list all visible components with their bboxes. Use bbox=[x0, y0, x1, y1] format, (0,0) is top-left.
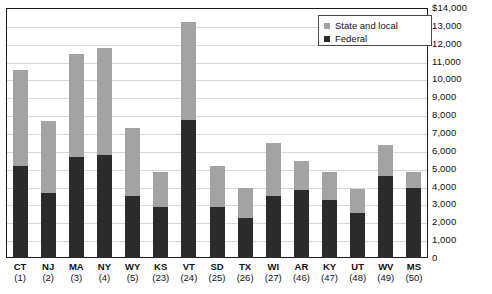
x-axis-state-abbr: WV bbox=[371, 261, 401, 272]
bar-segment-state-and-local bbox=[350, 189, 365, 213]
x-axis-state-rank: (27) bbox=[258, 272, 288, 283]
bar-column bbox=[378, 145, 393, 258]
bar-segment-state-and-local bbox=[322, 172, 337, 200]
bar-segment-state-and-local bbox=[125, 128, 140, 196]
x-axis-state-rank: (2) bbox=[33, 272, 63, 283]
chart-legend: State and local Federal bbox=[318, 15, 432, 46]
bar-column bbox=[294, 161, 309, 258]
y-axis-tick-label: 5,000 bbox=[432, 164, 456, 174]
bar-segment-federal bbox=[322, 200, 337, 258]
x-axis-tick-label: AR(46) bbox=[286, 261, 316, 283]
legend-label-state-and-local: State and local bbox=[335, 21, 398, 31]
x-axis-state-abbr: WY bbox=[118, 261, 148, 272]
y-axis-tick-label: 0 bbox=[432, 253, 437, 263]
x-axis-state-rank: (23) bbox=[146, 272, 176, 283]
y-axis-tick-label: 7,000 bbox=[432, 128, 456, 138]
bar-column bbox=[322, 172, 337, 258]
bar-segment-state-and-local bbox=[69, 54, 84, 157]
x-axis-state-rank: (26) bbox=[230, 272, 260, 283]
bar-column bbox=[181, 22, 196, 258]
cropped-title-text bbox=[70, 0, 370, 2]
x-axis-state-rank: (1) bbox=[5, 272, 35, 283]
y-axis-tick-label: 12,000 bbox=[432, 39, 462, 49]
bar-column bbox=[69, 54, 84, 258]
y-axis-tick-label: 9,000 bbox=[432, 92, 456, 102]
x-axis-state-rank: (46) bbox=[286, 272, 316, 283]
x-axis-state-abbr: MS bbox=[399, 261, 429, 272]
x-axis-state-rank: (24) bbox=[174, 272, 204, 283]
bar-segment-federal bbox=[238, 218, 253, 258]
y-axis-labels: $14,00013,00012,00011,00010,0009,0008,00… bbox=[432, 0, 492, 270]
x-axis-tick-label: SD(25) bbox=[202, 261, 232, 283]
x-axis-state-abbr: NY bbox=[89, 261, 119, 272]
x-axis-tick-label: NJ(2) bbox=[33, 261, 63, 283]
x-axis-state-rank: (25) bbox=[202, 272, 232, 283]
x-axis-state-abbr: KY bbox=[315, 261, 345, 272]
x-axis-state-abbr: NJ bbox=[33, 261, 63, 272]
x-axis-state-rank: (50) bbox=[399, 272, 429, 283]
bar-segment-state-and-local bbox=[378, 145, 393, 176]
x-axis-state-rank: (4) bbox=[89, 272, 119, 283]
bar-segment-federal bbox=[378, 176, 393, 258]
x-axis-tick-label: VT(24) bbox=[174, 261, 204, 283]
bar-column bbox=[153, 172, 168, 258]
legend-swatch-icon-state-and-local bbox=[324, 23, 330, 29]
bar-segment-federal bbox=[406, 188, 421, 258]
x-axis-state-rank: (47) bbox=[315, 272, 345, 283]
y-axis-tick-label: 11,000 bbox=[432, 57, 461, 67]
bar-segment-state-and-local bbox=[13, 70, 28, 166]
x-axis-state-abbr: KS bbox=[146, 261, 176, 272]
bar-segment-state-and-local bbox=[153, 172, 168, 207]
x-axis-state-rank: (48) bbox=[343, 272, 373, 283]
x-axis-tick-label: CT(1) bbox=[5, 261, 35, 283]
x-axis-state-rank: (5) bbox=[118, 272, 148, 283]
bar-column bbox=[210, 166, 225, 258]
bar-segment-federal bbox=[350, 213, 365, 258]
legend-item-federal: Federal bbox=[324, 32, 431, 45]
bar-column bbox=[125, 128, 140, 258]
x-axis-tick-label: MA(3) bbox=[61, 261, 91, 283]
bar-segment-state-and-local bbox=[266, 143, 281, 196]
bar-segment-federal bbox=[210, 207, 225, 258]
bar-segment-federal bbox=[125, 196, 140, 258]
bar-segment-state-and-local bbox=[97, 48, 112, 155]
x-axis-state-abbr: WI bbox=[258, 261, 288, 272]
bar-segment-state-and-local bbox=[406, 172, 421, 188]
legend-item-state-and-local: State and local bbox=[324, 19, 431, 32]
x-axis-labels: CT(1)NJ(2)MA(3)NY(4)WY(5)KS(23)VT(24)SD(… bbox=[6, 261, 428, 294]
x-axis-tick-label: UT(48) bbox=[343, 261, 373, 283]
bar-segment-federal bbox=[69, 157, 84, 258]
bar-column bbox=[406, 172, 421, 258]
bar-segment-federal bbox=[181, 120, 196, 258]
bar-segment-federal bbox=[97, 155, 112, 258]
y-axis-tick-label: 8,000 bbox=[432, 110, 456, 120]
y-axis-tick-label: 6,000 bbox=[432, 146, 456, 156]
y-axis-tick-label: 3,000 bbox=[432, 199, 456, 209]
x-axis-state-abbr: AR bbox=[286, 261, 316, 272]
bar-segment-state-and-local bbox=[294, 161, 309, 190]
x-axis-tick-label: NY(4) bbox=[89, 261, 119, 283]
x-axis-tick-label: MS(50) bbox=[399, 261, 429, 283]
bar-segment-state-and-local bbox=[238, 188, 253, 218]
bar-segment-state-and-local bbox=[41, 121, 56, 193]
bar-column bbox=[238, 188, 253, 258]
x-axis-tick-label: KS(23) bbox=[146, 261, 176, 283]
legend-swatch-icon-federal bbox=[324, 36, 330, 42]
x-axis-tick-label: WV(49) bbox=[371, 261, 401, 283]
x-axis-tick-label: KY(47) bbox=[315, 261, 345, 283]
bar-segment-state-and-local bbox=[181, 22, 196, 120]
bar-column bbox=[266, 143, 281, 258]
legend-label-federal: Federal bbox=[335, 34, 367, 44]
x-axis-state-abbr: VT bbox=[174, 261, 204, 272]
bar-column bbox=[41, 121, 56, 258]
x-axis-state-abbr: MA bbox=[61, 261, 91, 272]
x-axis-state-rank: (49) bbox=[371, 272, 401, 283]
bar-segment-federal bbox=[41, 193, 56, 258]
x-axis-state-abbr: SD bbox=[202, 261, 232, 272]
x-axis-state-abbr: UT bbox=[343, 261, 373, 272]
x-axis-tick-label: WI(27) bbox=[258, 261, 288, 283]
bar-segment-federal bbox=[13, 166, 28, 258]
bar-segment-state-and-local bbox=[210, 166, 225, 207]
stacked-bar-chart: State and local Federal $14,00013,00012,… bbox=[0, 0, 492, 294]
bar-column bbox=[97, 48, 112, 258]
